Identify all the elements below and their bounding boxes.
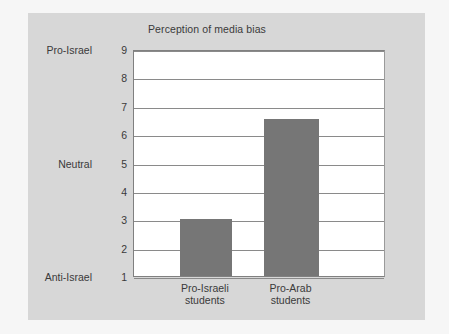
- gridline: [134, 278, 384, 279]
- y-axis-named-label: Neutral: [8, 159, 92, 169]
- x-axis-category-label-line: Pro-Arab: [269, 282, 311, 294]
- x-axis-category-label-line: Pro-Israeli: [181, 282, 229, 294]
- y-axis-tick-label: 9: [101, 45, 127, 55]
- chart-title: Perception of media bias: [148, 23, 266, 35]
- bars-group: [134, 51, 384, 276]
- y-axis-tick-label: 8: [101, 73, 127, 83]
- plot-area: [133, 50, 385, 277]
- chart-figure-panel: Perception of media bias 123456789 Pro-I…: [28, 13, 425, 320]
- y-axis-tick-label: 5: [101, 159, 127, 169]
- y-axis-named-label: Pro-Israel: [8, 45, 92, 55]
- y-axis-tick-label: 7: [101, 102, 127, 112]
- bar: [180, 219, 232, 276]
- y-axis-tick-label: 6: [101, 130, 127, 140]
- y-axis-tick-label: 4: [101, 187, 127, 197]
- x-axis-category-label: Pro-Arabstudents: [236, 282, 346, 306]
- y-axis-named-label: Anti-Israel: [8, 272, 92, 282]
- y-axis-tick-label: 3: [101, 215, 127, 225]
- x-axis-category-label-line: students: [236, 294, 346, 306]
- y-axis-tick-label: 2: [101, 244, 127, 254]
- y-axis-tick-label: 1: [101, 272, 127, 282]
- bar: [264, 119, 319, 276]
